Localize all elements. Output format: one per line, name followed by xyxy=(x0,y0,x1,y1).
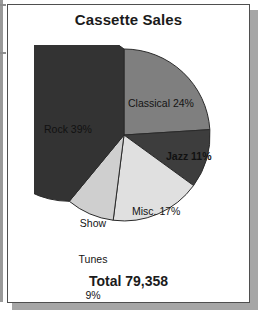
pie-slice-classical[interactable] xyxy=(124,49,210,135)
pie-svg xyxy=(34,45,214,225)
chart-card: Cassette Sales Classical 24% Jazz 11% Mi… xyxy=(7,4,250,303)
pie-label-show-tunes-line2: Tunes xyxy=(70,253,116,265)
pie-label-rock: Rock 39% xyxy=(44,123,92,135)
chart-total-label: Total 79,358 xyxy=(8,273,249,289)
adjacent-frame-edge xyxy=(0,0,3,302)
adjacent-frame-tick-mid xyxy=(0,52,6,54)
pie-label-show-tunes-line1: Show xyxy=(70,217,116,229)
page-backdrop: Cassette Sales Classical 24% Jazz 11% Mi… xyxy=(0,0,260,320)
pie-chart: Classical 24% Jazz 11% Misc. 17% Show Tu… xyxy=(8,5,251,304)
pie-label-misc: Misc. 17% xyxy=(132,205,180,217)
adjacent-frame-tick-top xyxy=(0,4,6,6)
pie-label-show-tunes: Show Tunes 9% xyxy=(70,193,116,320)
pie-label-classical: Classical 24% xyxy=(128,97,194,109)
pie-label-show-tunes-line3: 9% xyxy=(70,289,116,301)
pie-label-jazz: Jazz 11% xyxy=(166,150,212,162)
